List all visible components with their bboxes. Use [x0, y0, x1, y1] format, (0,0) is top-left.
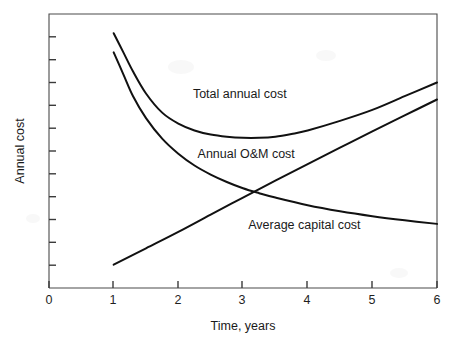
x-tick-label-1: 1: [110, 293, 117, 307]
series-label-total-annual-cost: Total annual cost: [193, 87, 287, 101]
x-tick-label-0: 0: [46, 293, 53, 307]
chart-figure: 0 1 2 3 4 5 6 Total annual cost Annual O…: [0, 0, 456, 348]
x-tick-label-6: 6: [434, 293, 441, 307]
x-tick-label-5: 5: [369, 293, 376, 307]
curve-average-capital-cost: [114, 52, 437, 224]
x-tick-label-3: 3: [239, 293, 246, 307]
x-tick-label-4: 4: [304, 293, 311, 307]
x-axis-title: Time, years: [211, 319, 276, 333]
x-axis-tick-labels: 0 1 2 3 4 5 6: [46, 293, 441, 307]
x-axis-ticks: [49, 281, 437, 288]
annual-cost-vs-time-chart: 0 1 2 3 4 5 6 Total annual cost Annual O…: [0, 0, 456, 348]
y-axis-title: Annual cost: [13, 118, 27, 184]
scan-artifact-caption: [96, 334, 376, 346]
curve-annual-om-cost: [114, 99, 437, 264]
series-label-average-capital-cost: Average capital cost: [248, 218, 361, 232]
y-axis-ticks: [49, 37, 56, 265]
series-label-annual-om-cost: Annual O&M cost: [198, 147, 296, 161]
x-tick-label-2: 2: [175, 293, 182, 307]
